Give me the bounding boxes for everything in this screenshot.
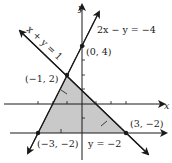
vertex-label-minus3-minus2: (−3, −2) <box>37 138 78 149</box>
label-y-eq-minus-2: y = −2 <box>87 138 121 149</box>
x-axis-label: x <box>164 100 170 111</box>
label-x-plus-y: x + y = 1 <box>25 23 65 62</box>
vertex-label-3-minus2: (3, −2) <box>130 118 164 129</box>
inequality-graph: y x 2x − y = −4 x + y = 1 y = −2 (0, 4) … <box>0 0 172 163</box>
vertex-label-minus1-2: (−1, 2) <box>25 73 59 84</box>
line-x-plus-y-arrow <box>20 31 148 154</box>
label-2x-minus-y: 2x − y = −4 <box>97 24 156 35</box>
y-axis-label: y <box>77 2 84 13</box>
vertex-label-0-4: (0, 4) <box>86 46 112 57</box>
